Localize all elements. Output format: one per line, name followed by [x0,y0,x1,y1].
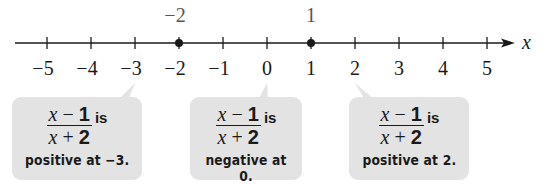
callout-box-3: x − 1 x + 2 is positive at 2. [349,97,469,180]
critical-point-dot [307,39,315,47]
callout-box-2: x − 1 x + 2 is negative at 0. [190,97,302,180]
critical-point-label: −2 [164,4,185,27]
tick-label: −5 [32,57,53,80]
tick-label: 5 [482,57,492,80]
tick-label: −2 [164,57,185,80]
number-line-diagram: −5−4−3−2−1012345−21 x x − 1 x + 2 is pos… [0,0,550,184]
fraction: x − 1 x + 2 [379,103,424,148]
fraction: x − 1 x + 2 [47,103,92,148]
critical-point-dot [175,39,183,47]
tick-label: 0 [262,57,272,80]
tick-label: −1 [208,57,229,80]
callout-caption: positive at 2. [362,152,456,168]
critical-point-label: 1 [306,4,316,27]
tick-label: −3 [120,57,141,80]
tick-label: 1 [306,57,316,80]
fraction: x − 1 x + 2 [216,103,261,148]
callout-box-1: x − 1 x + 2 is positive at −3. [12,97,142,180]
tick-label: 2 [350,57,360,80]
axis-label: x [522,31,531,54]
callout-caption: negative at 0. [197,152,296,184]
tick-label: 3 [394,57,404,80]
tick-label: 4 [438,57,448,80]
callout-caption: positive at −3. [25,152,129,168]
tick-label: −4 [76,57,97,80]
